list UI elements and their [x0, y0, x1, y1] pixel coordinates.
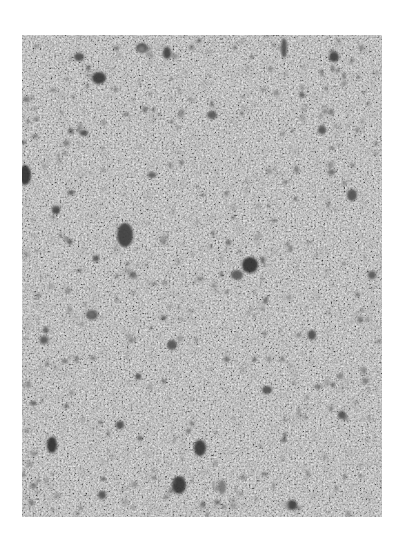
- pore: [163, 47, 171, 59]
- pore: [207, 111, 217, 119]
- pore: [329, 52, 339, 62]
- pore: [116, 421, 124, 429]
- pore: [92, 72, 106, 84]
- porous-surface-image: [22, 35, 382, 517]
- pore: [80, 130, 88, 136]
- pore: [281, 38, 287, 58]
- pore: [242, 257, 258, 273]
- image-description: Grayscale close-up photograph of a porou…: [0, 0, 1, 1]
- pore: [318, 126, 326, 134]
- pore: [368, 271, 376, 279]
- pore: [194, 440, 206, 456]
- pore: [218, 480, 226, 494]
- page: Grayscale close-up photograph of a porou…: [0, 0, 405, 549]
- pore: [308, 330, 316, 340]
- pore: [167, 340, 177, 350]
- pore: [47, 437, 57, 453]
- pore: [40, 336, 48, 344]
- pore: [117, 223, 133, 247]
- pore: [172, 476, 186, 494]
- texture-photo: [22, 35, 382, 517]
- pore: [74, 53, 84, 61]
- pore: [148, 172, 156, 178]
- pore: [262, 386, 272, 394]
- pore: [231, 270, 243, 280]
- pore: [347, 189, 357, 201]
- footer-text-cutoff: [24, 541, 164, 549]
